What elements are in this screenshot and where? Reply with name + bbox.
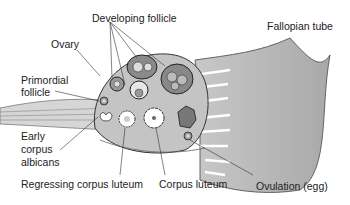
label-corpus-luteum: Corpus luteum [159,178,227,190]
label-regressing-corpus-luteum: Regressing corpus luteum [21,178,143,190]
label-primordial-2: follicle [21,86,50,98]
label-ovary: Ovary [51,38,79,50]
ligament [0,99,110,130]
label-early-1: Early [21,130,45,142]
fallopian-tube [195,38,330,192]
label-early-2: corpus [21,143,53,155]
label-early-3: albicans [21,156,60,168]
label-ovulation: Ovulation (egg) [256,180,328,192]
label-fallopian-tube: Fallopian tube [267,20,333,32]
label-developing-follicle: Developing follicle [92,12,177,24]
label-primordial-1: Primordial [21,74,68,86]
